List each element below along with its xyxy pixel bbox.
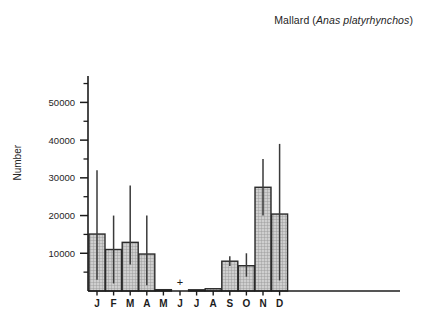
y-axis-tick-label: 30000: [49, 172, 75, 183]
x-axis-tick-label-june: J: [177, 298, 183, 309]
x-axis-tick-label-december: D: [276, 298, 283, 309]
chart-container: Mallard (Anas platyrhynchos) Number 1000…: [0, 0, 425, 330]
x-axis-tick-label-october: O: [243, 298, 251, 309]
x-axis-tick-label-july: J: [194, 298, 200, 309]
chart-plot-area: 1000020000300004000050000 + JFMAMJJASOND: [0, 0, 425, 330]
x-axis-tick-label-september: S: [226, 298, 233, 309]
x-axis-tick-label-february: F: [111, 298, 117, 309]
x-axis-tick-label-january: J: [94, 298, 100, 309]
y-axis-major-ticks: [80, 102, 88, 253]
x-axis-tick-label-april: A: [143, 298, 150, 309]
x-axis-tick-label-august: A: [210, 298, 217, 309]
x-axis-tick-label-march: M: [126, 298, 134, 309]
trace-marker-group: +: [177, 276, 183, 288]
bars-group: [89, 187, 288, 291]
x-axis-tick-label-november: N: [259, 298, 266, 309]
x-axis-tick-label-may: M: [159, 298, 167, 309]
y-axis-tick-label: 10000: [49, 248, 75, 259]
y-axis-tick-labels: 1000020000300004000050000: [49, 97, 75, 259]
y-axis-tick-label: 20000: [49, 210, 75, 221]
trace-amount-marker: +: [177, 276, 183, 288]
y-axis-tick-label: 40000: [49, 135, 75, 146]
y-axis-tick-label: 50000: [49, 97, 75, 108]
x-axis-tick-labels: JFMAMJJASOND: [94, 298, 283, 309]
